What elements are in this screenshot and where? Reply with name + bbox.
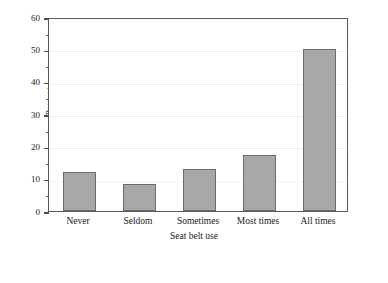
bar: [183, 169, 216, 211]
x-tick-label: All times: [288, 216, 348, 227]
y-tick-label: 40: [6, 78, 40, 87]
y-tick-label: 10: [6, 175, 40, 184]
bar: [243, 155, 276, 211]
y-tick-minor: [46, 164, 50, 165]
y-tick-minor: [46, 35, 50, 36]
y-tick-label: 20: [6, 143, 40, 152]
bar: [63, 172, 96, 211]
bar: [303, 49, 336, 211]
y-tick-major: [44, 148, 49, 149]
bar-chart-figure: Percent 0102030405060 NeverSeldomSometim…: [0, 0, 388, 283]
bar: [123, 184, 156, 211]
y-tick-minor: [46, 196, 50, 197]
y-tick-major: [44, 18, 49, 19]
y-tick-major: [44, 83, 49, 84]
y-tick-minor: [46, 99, 50, 100]
y-tick-major: [44, 212, 49, 213]
y-tick-major: [44, 51, 49, 52]
y-tick-minor: [46, 132, 50, 133]
x-tick-label: Most times: [228, 216, 288, 227]
x-tick-label: Never: [48, 216, 108, 227]
x-axis-title: Seat belt use: [0, 231, 388, 241]
y-tick-label: 0: [6, 208, 40, 217]
y-tick-major: [44, 180, 49, 181]
y-tick-major: [44, 115, 49, 116]
y-tick-label: 60: [6, 14, 40, 23]
y-tick-minor: [46, 67, 50, 68]
x-tick-label: Seldom: [108, 216, 168, 227]
y-tick-label: 50: [6, 46, 40, 55]
plot-area: [48, 18, 348, 212]
y-tick-label: 30: [6, 111, 40, 120]
x-tick-label: Sometimes: [168, 216, 228, 227]
